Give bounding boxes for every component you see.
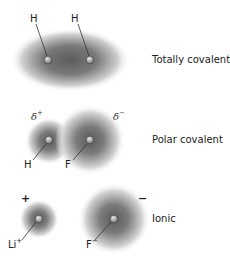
bond-type-polar-covalent: Polar covalent <box>152 135 223 145</box>
covalent-h2-molecule <box>10 24 130 92</box>
ion-charge-negative: − <box>138 193 147 204</box>
ion-label-li: Li+ <box>8 240 22 250</box>
bonding-diagram <box>0 0 230 262</box>
atom-label-h-right: H <box>71 14 79 24</box>
nucleus-icon <box>110 215 118 223</box>
ion-label-f: F− <box>86 240 98 250</box>
shared-electron-cloud <box>10 28 130 92</box>
partial-charge-positive: δ+ <box>31 112 43 122</box>
atom-label-h: H <box>24 160 32 170</box>
nucleus-icon <box>86 56 94 64</box>
atom-label-f: F <box>65 160 71 170</box>
nucleus-icon <box>44 56 52 64</box>
nucleus-icon <box>35 215 43 223</box>
bond-type-totally-covalent: Totally covalent <box>152 55 230 65</box>
atom-label-h-left: H <box>30 14 38 24</box>
ionic-lif-pair <box>19 183 150 255</box>
bond-type-ionic: Ionic <box>152 214 176 224</box>
partial-charge-negative: δ− <box>113 112 125 122</box>
nucleus-icon <box>86 136 94 144</box>
nucleus-icon <box>45 136 53 144</box>
ion-charge-positive: + <box>21 193 30 204</box>
